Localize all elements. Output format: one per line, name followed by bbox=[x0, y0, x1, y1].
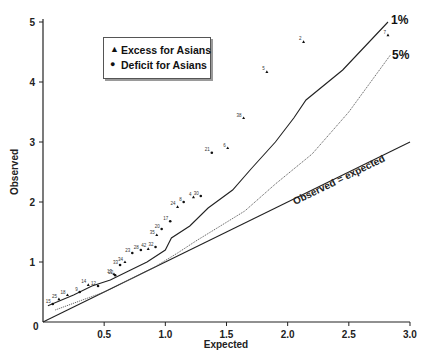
triangle-marker bbox=[66, 293, 69, 296]
legend-item-deficit: ● Deficit for Asians bbox=[110, 57, 210, 72]
point-label: 38 bbox=[237, 113, 243, 118]
point-label: 9 bbox=[75, 287, 78, 292]
triangle-marker bbox=[176, 205, 179, 208]
x-tick-label: 2.5 bbox=[342, 329, 356, 340]
circle-marker bbox=[78, 291, 81, 294]
triangle-marker bbox=[242, 116, 245, 119]
point-label: 28 bbox=[134, 245, 140, 250]
point-label: 21 bbox=[205, 147, 211, 152]
x-tick-label: 2.0 bbox=[281, 329, 295, 340]
five-percent-label: 5% bbox=[392, 48, 410, 62]
circle-marker bbox=[211, 152, 214, 155]
point-label: 33 bbox=[113, 260, 119, 265]
qq-chart: 7253864243542341314182521308172032282333… bbox=[0, 0, 435, 361]
point-label: 23 bbox=[125, 248, 131, 253]
point-label: 22 bbox=[108, 270, 114, 275]
point-label: 17 bbox=[163, 216, 169, 221]
point-label: 8 bbox=[179, 197, 182, 202]
y-tick-label: 2 bbox=[29, 197, 35, 208]
legend-item-excess: ▲ Excess for Asians bbox=[110, 42, 210, 57]
circle-marker bbox=[131, 252, 134, 255]
circle-marker bbox=[51, 303, 54, 306]
axes: 0.51.01.52.02.53.012345 bbox=[29, 17, 417, 340]
triangle-marker-icon: ▲ bbox=[110, 45, 119, 54]
y-tick-label: 5 bbox=[29, 17, 35, 28]
y-tick-label: 4 bbox=[29, 77, 35, 88]
point-label: 6 bbox=[223, 143, 226, 148]
origin-label: 0 bbox=[33, 321, 39, 332]
x-tick-label: 3.0 bbox=[403, 329, 417, 340]
y-axis-title: Observed bbox=[9, 149, 20, 195]
point-label: 14 bbox=[81, 279, 87, 284]
triangle-marker bbox=[123, 260, 126, 263]
point-label: 12 bbox=[91, 281, 97, 286]
circle-marker bbox=[140, 249, 143, 252]
point-label: 2 bbox=[299, 36, 302, 41]
triangle-marker bbox=[226, 146, 229, 149]
reference-line-1- bbox=[48, 22, 388, 306]
circle-marker bbox=[160, 228, 163, 231]
y-tick-label: 3 bbox=[29, 137, 35, 148]
triangle-marker bbox=[302, 40, 305, 43]
point-label: 34 bbox=[118, 257, 124, 262]
circle-marker bbox=[119, 264, 122, 267]
triangle-marker bbox=[147, 247, 150, 250]
x-axis-title: Expected bbox=[204, 339, 248, 350]
y-tick-label: 1 bbox=[29, 257, 35, 268]
point-label: 5 bbox=[262, 66, 265, 71]
point-label: 24 bbox=[171, 201, 177, 206]
circle-marker-icon: ● bbox=[110, 60, 119, 69]
x-tick-label: 1.0 bbox=[158, 329, 172, 340]
triangle-marker bbox=[57, 298, 60, 301]
legend-label-deficit: Deficit for Asians bbox=[121, 59, 207, 71]
point-label: 30 bbox=[194, 191, 200, 196]
legend: ▲ Excess for Asians ● Deficit for Asians bbox=[103, 37, 211, 79]
point-label: 25 bbox=[52, 294, 58, 299]
triangle-marker bbox=[87, 283, 90, 286]
triangle-marker bbox=[155, 233, 158, 236]
x-tick-label: 0.5 bbox=[97, 329, 111, 340]
circle-marker bbox=[114, 274, 117, 277]
circle-marker bbox=[97, 285, 100, 288]
triangle-marker bbox=[265, 70, 268, 73]
point-label: 15 bbox=[46, 299, 52, 304]
point-label: 20 bbox=[155, 224, 161, 229]
point-label: 42 bbox=[141, 243, 147, 248]
legend-label-excess: Excess for Asians bbox=[121, 44, 211, 56]
circle-marker bbox=[182, 201, 185, 204]
point-label: 4 bbox=[189, 192, 192, 197]
point-label: 32 bbox=[149, 242, 155, 247]
circle-marker bbox=[200, 195, 203, 198]
one-percent-label: 1% bbox=[391, 13, 409, 27]
triangle-marker bbox=[386, 34, 389, 37]
circle-marker bbox=[169, 220, 172, 223]
circle-marker bbox=[154, 246, 157, 249]
point-label: 35 bbox=[150, 230, 156, 235]
point-label: 7 bbox=[383, 30, 386, 35]
triangle-marker bbox=[192, 196, 195, 199]
point-label: 18 bbox=[60, 290, 66, 295]
data-points: 7253864243542341314182521308172032282333… bbox=[46, 30, 390, 306]
observed-equals-expected-label: Observed = expected bbox=[291, 153, 387, 207]
